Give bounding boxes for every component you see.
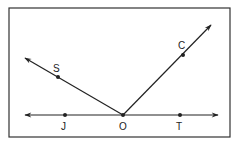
point-s [56,75,60,79]
diagram-frame [9,8,230,137]
label-o: O [119,121,127,132]
ray-os [25,58,123,115]
label-t: T [176,121,182,132]
geometry-diagram: S C J O T [0,0,238,147]
point-c [181,53,185,57]
point-o [121,113,125,117]
ray-oc [123,25,211,115]
label-c: C [178,40,185,51]
label-j: J [61,121,66,132]
point-j [63,113,67,117]
point-t [178,113,182,117]
label-s: S [53,63,60,74]
